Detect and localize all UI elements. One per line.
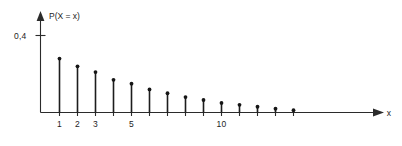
x-tick-label-10: 10 — [217, 119, 227, 129]
x-axis-arrow-icon — [373, 109, 384, 117]
x-tick-label-5: 5 — [129, 119, 134, 129]
x-tick-label-2: 2 — [75, 119, 80, 129]
stem-marker-dot — [292, 108, 296, 112]
x-tick-label-1: 1 — [57, 119, 62, 129]
stem-marker-dot — [76, 64, 80, 68]
chart-canvas: P(X = x) 0,4 x 1 2 3 5 10 — [0, 0, 402, 146]
stem-series — [58, 57, 296, 113]
stem-marker-dot — [94, 70, 98, 74]
stem-marker-dot — [166, 91, 170, 95]
stem-marker-dot — [148, 88, 152, 92]
stem-marker-dot — [112, 78, 116, 82]
stem-marker-dot — [238, 103, 242, 107]
y-tick-label-04: 0,4 — [14, 31, 26, 41]
stem-marker-dot — [202, 98, 206, 102]
stem-marker-dot — [274, 107, 278, 111]
y-axis-arrow-icon — [37, 11, 45, 21]
probability-mass-function-chart: P(X = x) 0,4 x 1 2 3 5 10 — [0, 0, 402, 146]
stem-marker-dot — [130, 82, 134, 86]
stem-marker-dot — [220, 101, 224, 105]
x-tick-label-3: 3 — [93, 119, 98, 129]
stem-marker-dot — [58, 57, 62, 61]
stem-marker-dot — [184, 95, 188, 99]
x-axis-label: x — [387, 108, 392, 118]
y-axis-label: P(X = x) — [49, 11, 80, 21]
stem-marker-dot — [256, 105, 260, 109]
